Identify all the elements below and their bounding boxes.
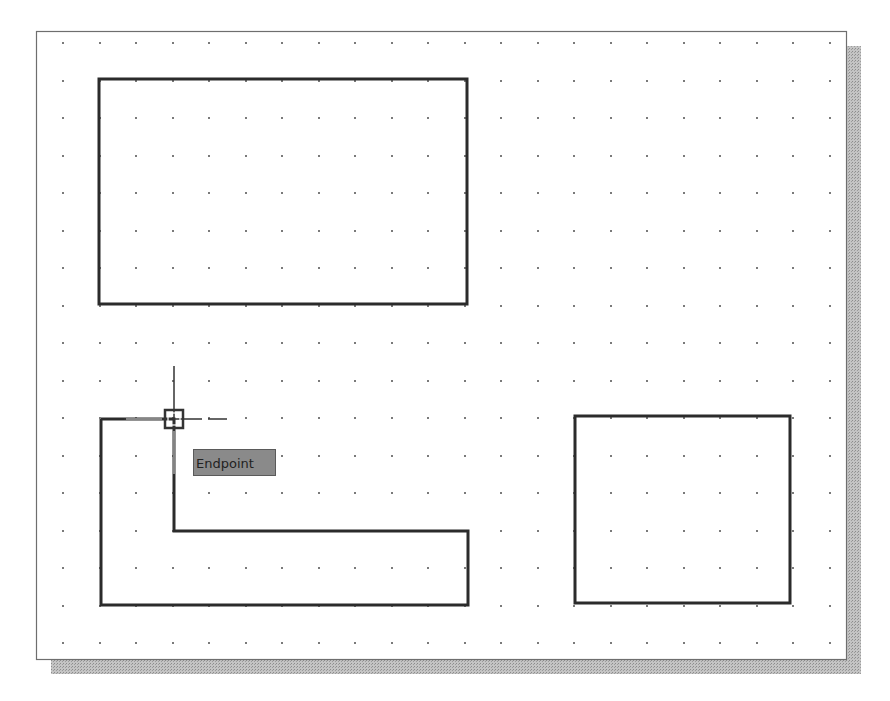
endpoint-osnap-tooltip: Endpoint xyxy=(193,449,276,476)
model-space-canvas[interactable] xyxy=(0,0,890,701)
osnap-tooltip-label: Endpoint xyxy=(196,456,254,471)
viewport-frame xyxy=(37,32,847,660)
drawing-area[interactable]: Endpoint xyxy=(0,0,890,701)
